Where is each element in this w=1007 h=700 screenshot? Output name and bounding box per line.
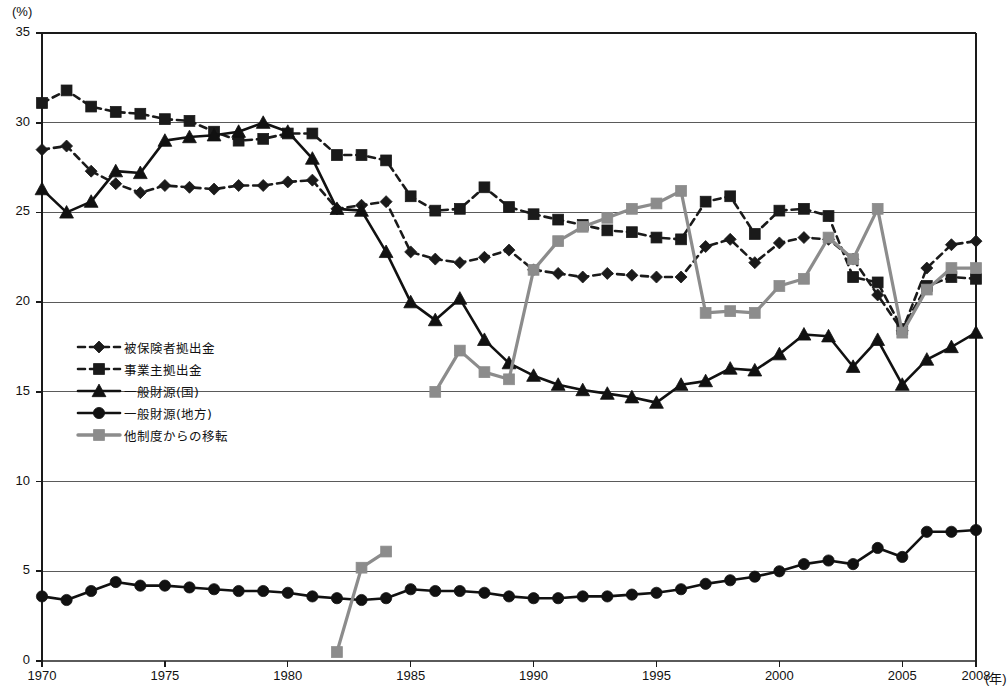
data-point (528, 209, 539, 220)
data-point (86, 585, 97, 596)
data-point (135, 580, 146, 591)
y-axis-tick-label: 30 (0, 114, 30, 129)
data-point (258, 585, 269, 596)
data-point (872, 277, 883, 288)
data-point (946, 526, 957, 537)
x-axis-unit-label: (年) (985, 668, 1007, 687)
data-point (946, 263, 957, 274)
x-axis-tick-label: 2000 (749, 668, 809, 683)
data-point (676, 185, 687, 196)
y-axis-tick-label: 25 (0, 203, 30, 218)
data-point (848, 559, 859, 570)
chart-legend: 被保険者拠出金事業主拠出金一般財源(国)一般財源(地方)他制度からの移転 (76, 336, 266, 446)
x-axis-tick-label: 1990 (504, 668, 564, 683)
data-point (553, 214, 564, 225)
legend-symbol-square-icon (76, 359, 122, 379)
data-point (380, 196, 392, 208)
data-point (257, 180, 269, 192)
y-axis-tick-label: 35 (0, 24, 30, 39)
data-point (307, 591, 318, 602)
data-point (453, 292, 467, 305)
data-point (626, 227, 637, 238)
data-point (258, 133, 269, 144)
legend-marker (94, 364, 105, 375)
legend-item-4: 他制度からの移転 (76, 424, 266, 446)
y-axis-tick-label: 0 (0, 652, 30, 667)
data-point (971, 273, 982, 284)
legend-item-1: 事業主拠出金 (76, 358, 266, 380)
data-point (504, 374, 515, 385)
data-point (527, 369, 541, 382)
data-point (183, 181, 195, 193)
series-line-4 (435, 191, 976, 392)
data-point (848, 254, 859, 265)
data-point (970, 524, 981, 535)
legend-label: 一般財源(地方) (124, 404, 212, 423)
data-point (233, 180, 245, 192)
data-point (282, 587, 293, 598)
data-point (602, 591, 613, 602)
data-point (110, 178, 122, 190)
legend-marker (94, 430, 105, 441)
legend-label: 他制度からの移転 (124, 426, 228, 445)
data-point (823, 555, 834, 566)
y-axis-tick-label: 5 (0, 562, 30, 577)
data-point (552, 267, 564, 279)
data-point (872, 203, 883, 214)
data-point (405, 246, 417, 258)
x-axis-tick-label: 1985 (381, 668, 441, 683)
data-point (725, 306, 736, 317)
data-point (454, 257, 466, 269)
legend-label: 事業主拠出金 (124, 360, 202, 379)
data-point (577, 271, 589, 283)
data-point (577, 221, 588, 232)
data-point (478, 333, 492, 346)
data-point (479, 182, 490, 193)
data-point (897, 327, 908, 338)
data-point (429, 253, 441, 265)
data-point (970, 235, 982, 247)
series-0 (36, 140, 982, 337)
legend-item-0: 被保険者拠出金 (76, 336, 266, 358)
data-point (725, 191, 736, 202)
series-line-0 (42, 146, 976, 331)
chart-caption (8, 684, 998, 698)
data-point (110, 107, 121, 118)
data-point (208, 183, 220, 195)
series-line-3 (42, 530, 976, 600)
data-point (700, 578, 711, 589)
data-point (381, 593, 392, 604)
data-point (626, 589, 637, 600)
data-point (86, 101, 97, 112)
data-point (134, 187, 146, 199)
data-point (626, 203, 637, 214)
data-point (503, 591, 514, 602)
data-point (799, 203, 810, 214)
data-point (332, 647, 343, 658)
y-axis-tick-label: 10 (0, 473, 30, 488)
data-point (921, 526, 932, 537)
data-point (454, 345, 465, 356)
data-point (799, 273, 810, 284)
data-point (528, 593, 539, 604)
legend-symbol-circle-icon (76, 403, 122, 423)
data-point (650, 271, 662, 283)
data-point (430, 205, 441, 216)
data-point (184, 116, 195, 127)
data-point (379, 245, 393, 258)
legend-marker (93, 341, 105, 353)
data-point (848, 272, 859, 283)
data-point (602, 225, 613, 236)
data-point (356, 150, 367, 161)
data-point (553, 236, 564, 247)
x-axis-tick-label: 2005 (872, 668, 932, 683)
data-point (454, 585, 465, 596)
data-point (430, 386, 441, 397)
data-point (871, 333, 885, 346)
data-point (651, 587, 662, 598)
x-axis-tick-label: 1975 (135, 668, 195, 683)
data-point (184, 582, 195, 593)
data-point (774, 205, 785, 216)
data-point (577, 591, 588, 602)
